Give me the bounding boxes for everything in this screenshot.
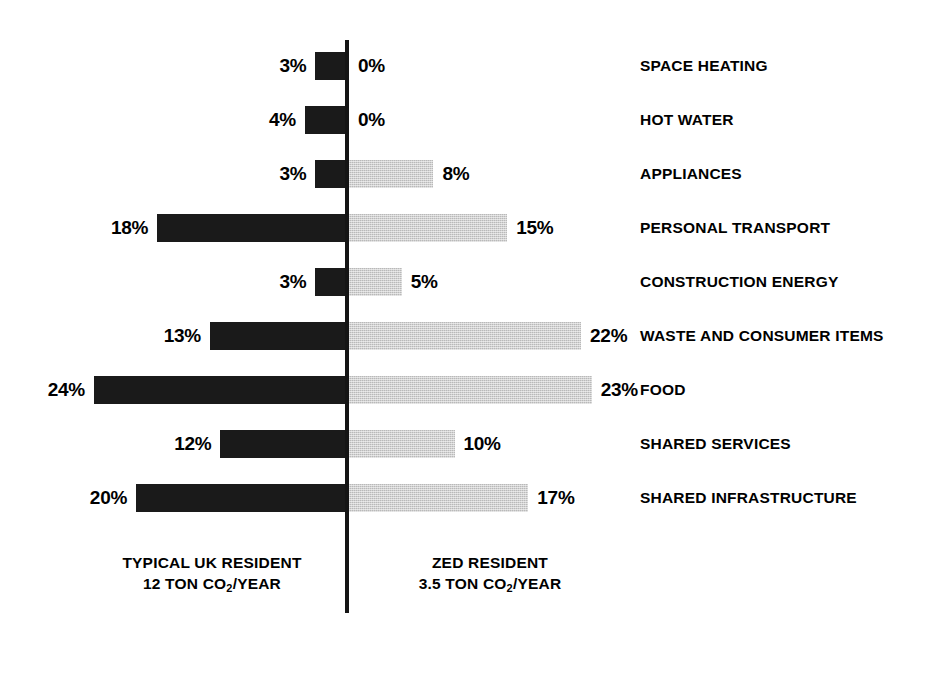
bar-value-zed-resident: 8% (442, 161, 469, 187)
center-axis-line (345, 40, 349, 613)
row-left-half: 4% (0, 93, 347, 147)
chart-rows: 3%0%SPACE HEATING4%0%HOT WATER3%8%APPLIA… (0, 0, 942, 540)
bar-uk-resident (157, 214, 347, 242)
chart-row: 3%0%SPACE HEATING (0, 39, 942, 93)
chart-row: 18%15%PERSONAL TRANSPORT (0, 201, 942, 255)
bar-uk-resident (315, 52, 347, 80)
row-left-half: 3% (0, 39, 347, 93)
category-label: SHARED SERVICES (640, 432, 791, 456)
row-left-half: 24% (0, 363, 347, 417)
bar-uk-resident (210, 322, 347, 350)
bar-zed-resident (349, 268, 402, 296)
bar-value-zed-resident: 10% (464, 431, 501, 457)
bar-value-zed-resident: 0% (358, 53, 385, 79)
series-uk-amount: 12 TON CO2/YEAR (82, 573, 342, 596)
chart-row: 13%22%WASTE AND CONSUMER ITEMS (0, 309, 942, 363)
bar-uk-resident (136, 484, 347, 512)
bar-value-uk-resident: 24% (48, 377, 85, 403)
series-zed-amount: 3.5 TON CO2/YEAR (360, 573, 620, 596)
category-label: SHARED INFRASTRUCTURE (640, 486, 857, 510)
chart-row: 3%8%APPLIANCES (0, 147, 942, 201)
chart-row: 3%5%CONSTRUCTION ENERGY (0, 255, 942, 309)
bar-zed-resident (349, 376, 592, 404)
bar-value-uk-resident: 18% (111, 215, 148, 241)
bar-uk-resident (220, 430, 347, 458)
series-zed-amount-subscript: 2 (507, 582, 513, 594)
row-left-half: 12% (0, 417, 347, 471)
bar-zed-resident (349, 322, 581, 350)
series-zed-amount-text: 3.5 TON CO (419, 575, 507, 592)
category-label: PERSONAL TRANSPORT (640, 216, 830, 240)
bar-value-uk-resident: 3% (279, 269, 306, 295)
bar-value-zed-resident: 23% (601, 377, 638, 403)
category-label: CONSTRUCTION ENERGY (640, 270, 838, 294)
chart-footer: TYPICAL UK RESIDENT 12 TON CO2/YEAR ZED … (0, 552, 942, 622)
series-caption-zed: ZED RESIDENT 3.5 TON CO2/YEAR (360, 552, 620, 596)
carbon-footprint-chart: 3%0%SPACE HEATING4%0%HOT WATER3%8%APPLIA… (0, 0, 942, 673)
bar-value-uk-resident: 12% (174, 431, 211, 457)
series-zed-amount-suffix: /YEAR (513, 575, 561, 592)
bar-zed-resident (349, 214, 507, 242)
series-uk-amount-suffix: /YEAR (233, 575, 281, 592)
category-label: HOT WATER (640, 108, 734, 132)
bar-value-zed-resident: 22% (590, 323, 627, 349)
bar-value-zed-resident: 5% (411, 269, 438, 295)
bar-value-uk-resident: 20% (90, 485, 127, 511)
bar-uk-resident (94, 376, 347, 404)
category-label: APPLIANCES (640, 162, 742, 186)
row-left-half: 18% (0, 201, 347, 255)
chart-row: 4%0%HOT WATER (0, 93, 942, 147)
bar-value-uk-resident: 4% (269, 107, 296, 133)
row-left-half: 20% (0, 471, 347, 525)
bar-uk-resident (315, 160, 347, 188)
chart-row: 24%23%FOOD (0, 363, 942, 417)
bar-zed-resident (349, 160, 433, 188)
row-left-half: 3% (0, 147, 347, 201)
bar-value-uk-resident: 3% (279, 161, 306, 187)
series-uk-name: TYPICAL UK RESIDENT (122, 554, 301, 571)
series-uk-amount-subscript: 2 (226, 582, 232, 594)
series-caption-uk: TYPICAL UK RESIDENT 12 TON CO2/YEAR (82, 552, 342, 596)
series-uk-amount-text: 12 TON CO (143, 575, 226, 592)
category-label: WASTE AND CONSUMER ITEMS (640, 324, 884, 348)
bar-uk-resident (305, 106, 347, 134)
bar-zed-resident (349, 430, 455, 458)
bar-value-zed-resident: 0% (358, 107, 385, 133)
bar-value-zed-resident: 15% (516, 215, 553, 241)
category-label: SPACE HEATING (640, 54, 768, 78)
row-left-half: 13% (0, 309, 347, 363)
bar-uk-resident (315, 268, 347, 296)
bar-zed-resident (349, 484, 528, 512)
bar-value-uk-resident: 13% (164, 323, 201, 349)
bar-value-uk-resident: 3% (279, 53, 306, 79)
chart-row: 20%17%SHARED INFRASTRUCTURE (0, 471, 942, 525)
category-label: FOOD (640, 378, 686, 402)
series-zed-name: ZED RESIDENT (432, 554, 548, 571)
row-left-half: 3% (0, 255, 347, 309)
chart-row: 12%10%SHARED SERVICES (0, 417, 942, 471)
bar-value-zed-resident: 17% (537, 485, 574, 511)
